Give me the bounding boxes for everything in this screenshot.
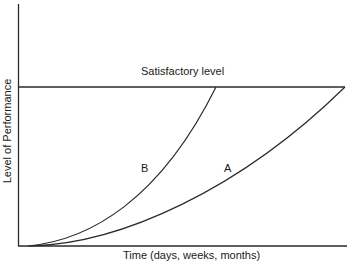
curve-a-label: A <box>224 162 231 174</box>
satisfactory-level-label: Satisfactory level <box>141 65 224 77</box>
curve-b <box>28 87 216 246</box>
curve-a <box>30 87 345 246</box>
x-axis-label: Time (days, weeks, months) <box>123 249 260 261</box>
curve-b-label: B <box>141 162 148 174</box>
learning-curve-diagram <box>0 0 347 262</box>
y-axis-label: Level of Performance <box>1 79 13 184</box>
